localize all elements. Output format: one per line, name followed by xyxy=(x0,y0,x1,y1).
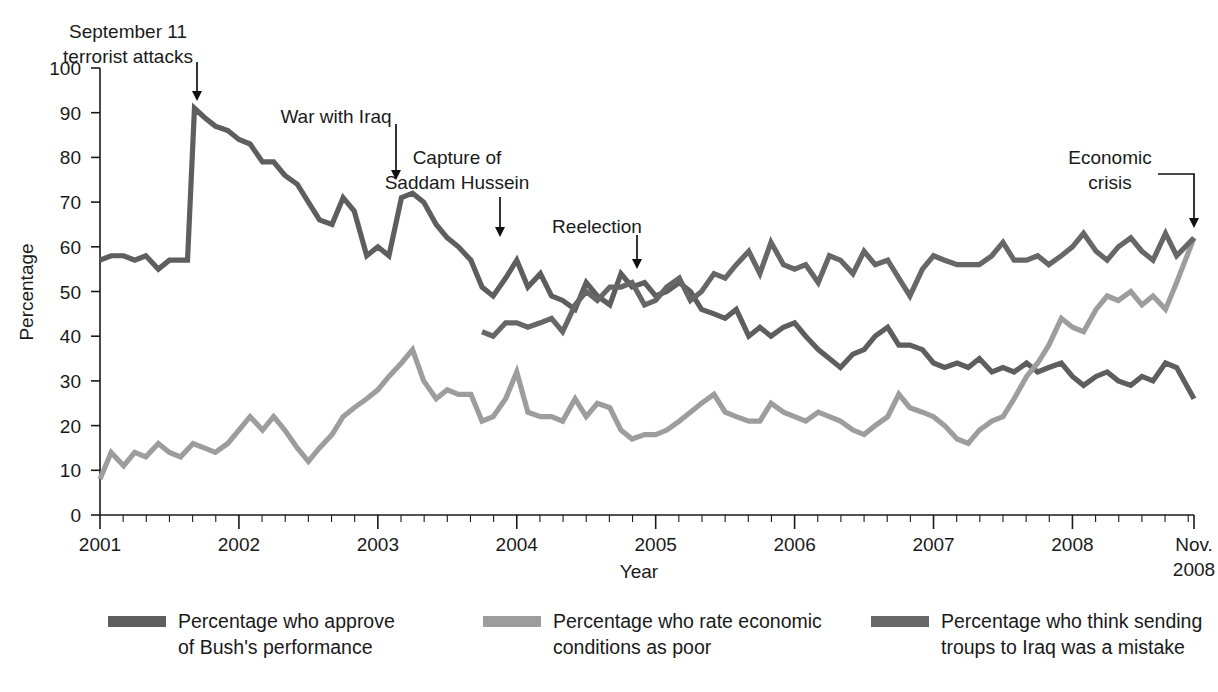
y-tick-label: 60 xyxy=(60,237,81,258)
x-tick-label: 2003 xyxy=(357,534,399,555)
annotation-label-0: September 11terrorist attacks xyxy=(63,21,193,67)
y-tick-label: 20 xyxy=(60,416,81,437)
series-line-1 xyxy=(100,238,1194,479)
y-axis-title: Percentage xyxy=(16,243,37,340)
x-tick-label: 2002 xyxy=(218,534,260,555)
x-tick-label: 2006 xyxy=(773,534,815,555)
legend-swatch-0 xyxy=(108,616,166,627)
annotation-label-3: Reelection xyxy=(552,216,642,237)
annotation-label-2: Capture ofSaddam Hussein xyxy=(385,147,530,193)
legend-label-0: Percentage who approve of Bush's perform… xyxy=(178,608,395,660)
legend-label-2: Percentage who think sending troups to I… xyxy=(941,608,1202,660)
x-tick-label: 2005 xyxy=(635,534,677,555)
annotation-label-1: War with Iraq xyxy=(280,106,391,127)
legend-swatch-2 xyxy=(871,616,929,627)
y-tick-label: 40 xyxy=(60,326,81,347)
axis-lines xyxy=(100,68,1194,515)
series-line-0 xyxy=(100,108,1194,399)
x-tick-label: Nov.2008 xyxy=(1173,534,1215,580)
y-tick-label: 50 xyxy=(60,282,81,303)
legend-entry-2: Percentage who think sending troups to I… xyxy=(871,608,1211,660)
y-tick-labels: 0102030405060708090100 xyxy=(49,58,81,526)
x-tick-label: 2004 xyxy=(496,534,539,555)
chart-legend: Percentage who approve of Bush's perform… xyxy=(0,608,1218,692)
y-axis-ticks xyxy=(91,68,100,515)
legend-label-1: Percentage who rate economic conditions … xyxy=(553,608,822,660)
y-tick-label: 0 xyxy=(70,505,81,526)
x-tick-label: 2007 xyxy=(912,534,954,555)
annotation-arrowhead-3 xyxy=(632,259,642,269)
figure: 0102030405060708090100 20012002200320042… xyxy=(0,0,1218,692)
annotation-arrowhead-2 xyxy=(495,227,505,237)
x-tick-label: 2008 xyxy=(1051,534,1093,555)
y-tick-label: 80 xyxy=(60,147,81,168)
line-chart: 0102030405060708090100 20012002200320042… xyxy=(0,0,1218,692)
y-tick-label: 30 xyxy=(60,371,81,392)
x-axis-ticks xyxy=(100,515,1194,529)
y-tick-label: 10 xyxy=(60,460,81,481)
annotation-arrowhead-0 xyxy=(192,91,202,101)
annotations: September 11terrorist attacksWar with Ir… xyxy=(63,21,1199,269)
legend-entry-0: Percentage who approve of Bush's perform… xyxy=(108,608,483,660)
annotation-arrow-4 xyxy=(1158,174,1194,221)
legend-entry-1: Percentage who rate economic conditions … xyxy=(483,608,871,660)
y-tick-label: 90 xyxy=(60,103,81,124)
x-tick-label: 2001 xyxy=(79,534,121,555)
annotation-arrowhead-4 xyxy=(1189,218,1199,228)
x-axis-title: Year xyxy=(620,561,659,582)
annotation-label-4: Economiccrisis xyxy=(1068,147,1151,193)
legend-swatch-1 xyxy=(483,616,541,627)
y-tick-label: 70 xyxy=(60,192,81,213)
series-lines xyxy=(100,108,1194,479)
